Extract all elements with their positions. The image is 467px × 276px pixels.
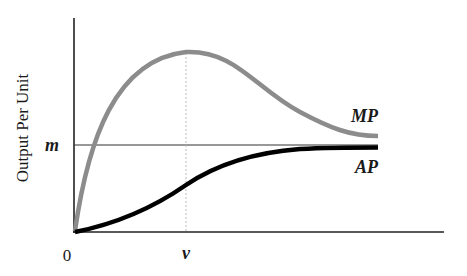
mp-label: MP	[350, 106, 379, 126]
ap-curve	[75, 148, 378, 233]
origin-label: 0	[63, 246, 72, 265]
m-tick-label: m	[45, 135, 59, 155]
y-axis-label: Output Per Unit	[13, 73, 32, 182]
ap-label: AP	[354, 157, 379, 177]
chart-canvas: Output Per Unit m 0 v MP AP	[0, 0, 467, 276]
v-tick-label: v	[182, 243, 191, 263]
mp-curve	[75, 52, 378, 231]
